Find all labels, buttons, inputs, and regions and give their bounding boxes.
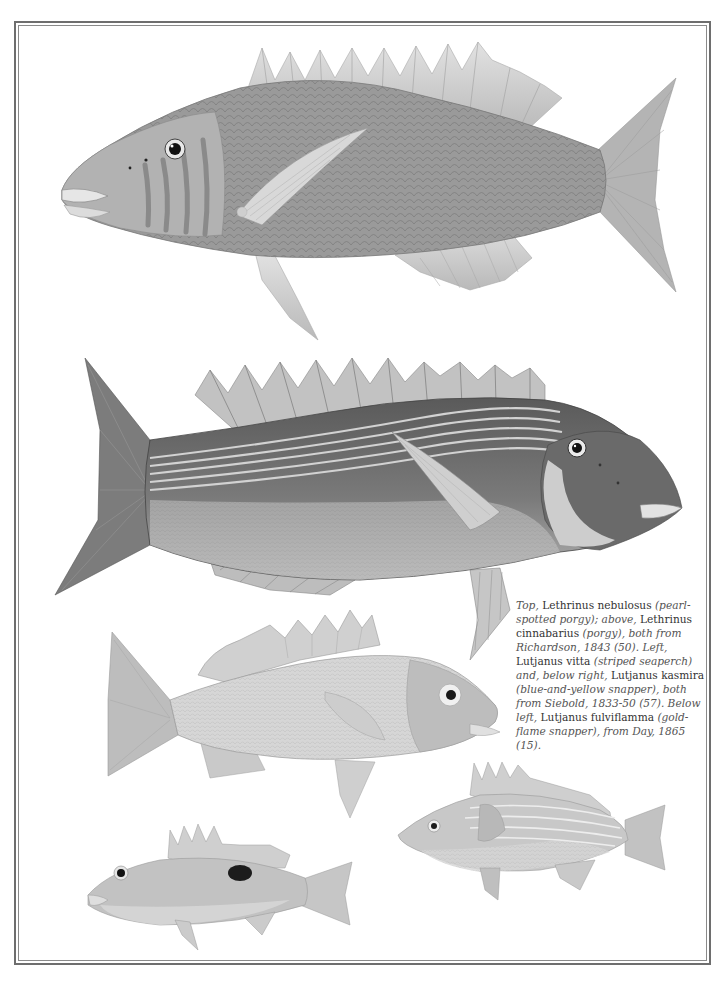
fish-lutjanus-fulviflamma bbox=[88, 824, 352, 950]
fish-lutjanus-kasmira bbox=[398, 762, 665, 900]
caption-species: Lutjanus vitta bbox=[516, 655, 594, 667]
fish-lutjanus-vitta bbox=[108, 610, 500, 818]
caption-segment: Top, bbox=[516, 599, 539, 611]
caption-species: Lutjanus fulviflamma bbox=[537, 711, 657, 723]
plate-caption: Top, Lethrinus nebulosus (pearl-spotted … bbox=[516, 598, 712, 752]
fish-lethrinus-nebulosus bbox=[62, 42, 676, 340]
fish-plate bbox=[0, 0, 723, 984]
caption-species: Lethrinus nebulosus bbox=[539, 599, 655, 611]
caption-species: Lutjanus kasmira bbox=[608, 669, 705, 681]
